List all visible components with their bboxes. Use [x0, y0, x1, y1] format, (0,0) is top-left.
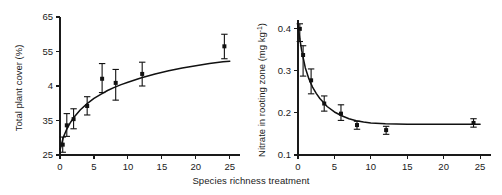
left-x-tick-labels: 0510152025	[57, 161, 235, 172]
data-point-marker	[339, 112, 343, 116]
x-tick-label: 0	[57, 161, 62, 172]
right-error-bars	[297, 24, 477, 135]
data-point-marker	[309, 78, 313, 82]
x-tick-label: 5	[91, 161, 96, 172]
y-tick-label: 4	[48, 80, 53, 91]
right-axes	[294, 20, 491, 159]
data-point-marker	[384, 128, 388, 132]
right-y-tick-labels: 0.10.20.30.4	[278, 23, 291, 161]
error-bar	[300, 46, 306, 76]
right-data-markers	[298, 27, 476, 132]
y-tick-label: 35	[42, 115, 53, 126]
data-point-marker	[140, 72, 144, 76]
right-fit-curve	[298, 25, 480, 124]
y-tick-label: 0.2	[278, 107, 291, 118]
x-tick-label: 15	[402, 161, 413, 172]
data-point-marker	[301, 53, 305, 57]
data-point-marker	[472, 121, 476, 125]
x-tick-label: 10	[366, 161, 377, 172]
x-tick-label: 25	[475, 161, 486, 172]
figure-container: 253545565 0510152025 Total plant cover (…	[0, 0, 502, 195]
x-tick-label: 10	[123, 161, 134, 172]
data-point-marker	[65, 123, 69, 127]
plant-cover-plot: 253545565 0510152025 Total plant cover (…	[0, 0, 251, 195]
right-y-axis-title: Nitrate in rooting zone (mg kg-1)	[256, 23, 268, 157]
x-tick-label: 15	[157, 161, 168, 172]
data-point-marker	[114, 81, 118, 85]
data-point-marker	[222, 44, 226, 48]
left-error-bars	[60, 34, 228, 152]
y-tick-label: 55	[42, 46, 53, 57]
shared-x-axis-title: Species richness treatment	[0, 175, 502, 186]
data-point-marker	[72, 117, 76, 121]
data-point-marker	[61, 143, 65, 147]
data-point-marker	[355, 123, 359, 127]
left-y-axis-title: Total plant cover (%)	[13, 45, 24, 132]
x-tick-label: 5	[332, 161, 337, 172]
data-point-marker	[85, 104, 89, 108]
data-point-marker	[298, 27, 302, 31]
x-tick-label: 20	[438, 161, 449, 172]
left-data-markers	[61, 44, 227, 146]
y-tick-label: 0.3	[278, 65, 291, 76]
chart-panel-nitrate: 0.10.20.30.4 0510152025 Nitrate in rooti…	[251, 0, 502, 195]
x-tick-label: 25	[225, 161, 236, 172]
y-tick-label: 65	[42, 11, 53, 22]
data-point-marker	[322, 102, 326, 106]
chart-panel-plant-cover: 253545565 0510152025 Total plant cover (…	[0, 0, 251, 195]
y-tick-label: 25	[42, 149, 53, 160]
right-x-tick-labels: 0510152025	[295, 161, 485, 172]
left-y-tick-labels: 253545565	[42, 11, 53, 160]
left-axes	[56, 17, 240, 159]
x-tick-label: 20	[191, 161, 202, 172]
y-tick-label: 0.4	[278, 23, 291, 34]
y-tick-label: 0.1	[278, 149, 291, 160]
data-point-marker	[100, 77, 104, 81]
x-tick-label: 0	[295, 161, 300, 172]
nitrate-plot: 0.10.20.30.4 0510152025 Nitrate in rooti…	[251, 0, 502, 195]
